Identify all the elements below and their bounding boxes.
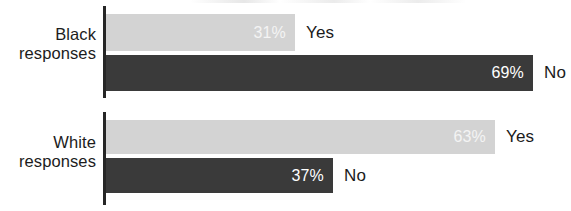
bar-row-black-no: 69% No <box>106 55 571 91</box>
bar-value-black-no: 69% <box>491 64 533 82</box>
bar-row-white-no: 37% No <box>106 158 506 193</box>
bar-series-label-white-yes: Yes <box>495 127 534 147</box>
bar-row-black-yes: 31% Yes <box>106 14 566 51</box>
category-label-black-responses: Black responses <box>0 25 96 63</box>
bar-series-label-black-yes: Yes <box>295 23 334 43</box>
category-label-line-2: responses <box>0 152 96 171</box>
category-label-line-1: Black <box>0 25 96 44</box>
bar-value-white-yes: 63% <box>453 128 495 146</box>
chart-group-black-responses: Black responses 31% Yes 69% No <box>0 0 571 105</box>
bar-chart: Black responses 31% Yes 69% No White res… <box>0 0 571 211</box>
bar-series-label-white-no: No <box>333 166 366 186</box>
bar-white-no: 37% <box>106 158 333 193</box>
bar-value-white-no: 37% <box>291 167 333 185</box>
bar-series-label-black-no: No <box>533 63 566 83</box>
bar-black-yes: 31% <box>106 14 295 51</box>
bar-white-yes: 63% <box>106 120 495 154</box>
bar-black-no: 69% <box>106 55 533 91</box>
category-label-line-1: White <box>0 133 96 152</box>
bar-row-white-yes: 63% Yes <box>106 120 571 154</box>
category-label-line-2: responses <box>0 44 96 63</box>
bar-value-black-yes: 31% <box>253 24 295 42</box>
chart-group-white-responses: White responses 63% Yes 37% No <box>0 108 571 211</box>
category-label-white-responses: White responses <box>0 133 96 171</box>
